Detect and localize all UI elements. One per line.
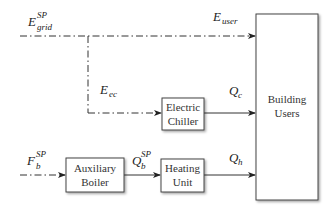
label-q-b-sp: Q b SP bbox=[132, 149, 152, 171]
label-sub: user bbox=[222, 16, 238, 26]
building-users-block: Building Users bbox=[256, 14, 318, 200]
label-e-user: E user bbox=[212, 9, 238, 26]
electric-chiller-block: Electric Chiller bbox=[162, 98, 204, 130]
auxiliary-boiler-label-line1: Auxiliary bbox=[74, 162, 117, 174]
building-users-label-line2: Users bbox=[274, 107, 299, 119]
label-base: F bbox=[26, 153, 36, 168]
heating-unit-label-line1: Heating bbox=[165, 162, 200, 174]
label-q-c: Q c bbox=[229, 83, 242, 100]
auxiliary-boiler-block: Auxiliary Boiler bbox=[66, 158, 124, 192]
label-sub: h bbox=[238, 157, 243, 167]
label-base: E bbox=[212, 9, 221, 24]
label-sup: SP bbox=[141, 149, 152, 159]
energy-flow-diagram: Building Users Electric Chiller Auxiliar… bbox=[0, 0, 335, 212]
electric-chiller-label-line2: Chiller bbox=[168, 115, 199, 127]
label-base: E bbox=[27, 14, 36, 29]
label-f-b-sp: F b SP bbox=[26, 149, 47, 171]
label-sub: b bbox=[36, 161, 41, 171]
label-e-ec: E ec bbox=[99, 82, 117, 99]
label-sup: SP bbox=[36, 149, 47, 159]
heating-unit-block: Heating Unit bbox=[161, 159, 204, 192]
electric-chiller-label-line1: Electric bbox=[166, 101, 200, 113]
building-users-label-line1: Building bbox=[268, 93, 307, 105]
label-sub: b bbox=[141, 161, 146, 171]
label-sub: c bbox=[238, 90, 242, 100]
heating-unit-label-line2: Unit bbox=[173, 176, 193, 188]
label-sub: ec bbox=[109, 89, 117, 99]
label-q-h: Q h bbox=[229, 150, 243, 167]
label-base: E bbox=[99, 82, 108, 97]
label-sup: SP bbox=[37, 10, 48, 20]
label-sub: grid bbox=[37, 22, 53, 32]
label-e-grid-sp: E grid SP bbox=[27, 10, 53, 32]
auxiliary-boiler-label-line2: Boiler bbox=[81, 176, 109, 188]
